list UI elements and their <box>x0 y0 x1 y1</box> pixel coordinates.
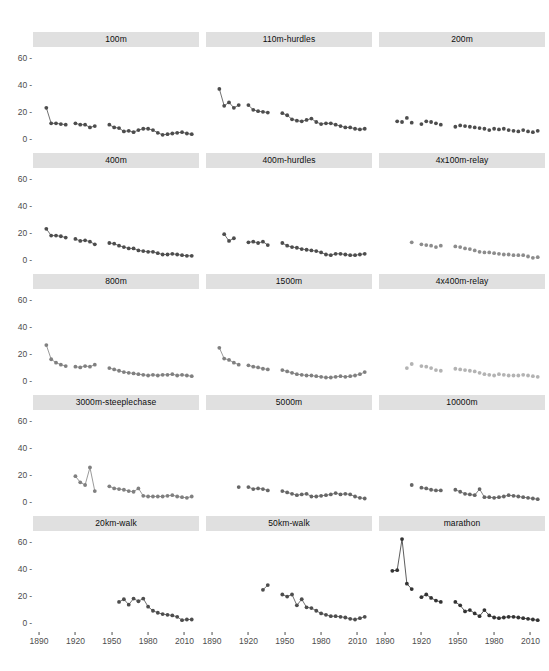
data-point <box>478 250 482 254</box>
data-point <box>424 593 428 597</box>
data-point <box>247 485 251 489</box>
y-tick-text: 40 <box>18 322 27 332</box>
y-axis-row-1: 0-20-40-60- <box>0 168 32 268</box>
series-canvas <box>206 168 372 268</box>
y-tick-mark: - <box>29 322 32 332</box>
data-point <box>251 365 255 369</box>
facet-panel-110m-hurdles: 110m-hurdles <box>206 32 372 147</box>
y-tick-label: 60- <box>18 54 32 63</box>
data-point <box>280 368 284 372</box>
data-point <box>161 612 165 616</box>
data-point <box>526 255 530 259</box>
facet-panel-400m: 400m <box>33 153 199 268</box>
data-point <box>310 249 314 253</box>
data-point <box>473 493 477 497</box>
data-point <box>280 593 284 597</box>
data-point <box>141 249 145 253</box>
data-point <box>439 244 443 248</box>
data-point <box>261 367 265 371</box>
data-point <box>166 253 170 257</box>
data-point <box>458 368 462 372</box>
data-point <box>339 493 343 497</box>
data-point <box>363 370 367 374</box>
data-point <box>536 255 540 259</box>
facet-strip-label: 110m-hurdles <box>263 35 316 44</box>
data-point <box>492 496 496 500</box>
data-point <box>290 245 294 249</box>
data-point <box>285 370 289 374</box>
x-tick-label: 1920 <box>412 632 431 646</box>
data-point <box>300 373 304 377</box>
data-point <box>78 123 82 127</box>
data-point <box>59 363 63 367</box>
facet-panel-1500m: 1500m <box>206 274 372 389</box>
data-point <box>353 374 357 378</box>
series-canvas <box>33 47 199 147</box>
data-point <box>49 234 53 238</box>
data-point <box>343 253 347 257</box>
data-point <box>390 569 394 573</box>
data-point <box>222 232 226 236</box>
data-point <box>526 617 530 621</box>
data-point <box>217 346 221 350</box>
data-point <box>473 370 477 374</box>
data-point <box>487 614 491 618</box>
data-point <box>502 253 506 257</box>
data-point <box>54 121 58 125</box>
data-point <box>343 492 347 496</box>
data-point <box>526 374 530 378</box>
data-point <box>324 613 328 617</box>
data-point <box>463 492 467 496</box>
y-tick-text: 0 <box>22 376 27 386</box>
facet-strip-label: 5000m <box>276 398 303 407</box>
data-point <box>161 495 165 499</box>
series-canvas <box>379 531 545 631</box>
data-point <box>487 128 491 132</box>
data-point <box>531 374 535 378</box>
y-tick-text: 20 <box>18 228 27 238</box>
data-point <box>141 373 145 377</box>
data-point <box>166 494 170 498</box>
data-point <box>463 247 467 251</box>
data-point <box>166 613 170 617</box>
data-point <box>483 608 487 612</box>
data-point <box>137 599 141 603</box>
data-point <box>78 365 82 369</box>
data-point <box>483 251 487 255</box>
data-point <box>497 495 501 499</box>
data-point <box>329 493 333 497</box>
data-point <box>434 599 438 603</box>
data-point <box>439 489 443 493</box>
data-point <box>217 87 221 91</box>
series-line <box>455 489 537 499</box>
data-point <box>190 132 194 136</box>
y-tick-text: 60 <box>18 53 27 63</box>
series-line <box>219 89 238 108</box>
series-canvas <box>379 410 545 510</box>
y-tick-text: 40 <box>18 80 27 90</box>
data-point <box>526 496 530 500</box>
data-point <box>487 373 491 377</box>
data-point <box>166 132 170 136</box>
data-point <box>319 612 323 616</box>
data-point <box>137 372 141 376</box>
data-point <box>319 494 323 498</box>
data-point <box>59 234 63 238</box>
data-point <box>127 603 131 607</box>
y-tick-mark: - <box>29 174 32 184</box>
data-point <box>329 121 333 125</box>
x-tick-text: 2010 <box>175 636 194 646</box>
facet-strip-20km-walk: 20km-walk <box>33 516 199 531</box>
x-tick-text: 1920 <box>66 636 85 646</box>
data-point <box>305 374 309 378</box>
data-point <box>348 617 352 621</box>
data-point <box>127 129 131 133</box>
data-point <box>290 593 294 597</box>
data-point <box>266 111 270 115</box>
facet-strip-800m: 800m <box>33 274 199 289</box>
data-point <box>175 495 179 499</box>
data-point <box>324 121 328 125</box>
y-tick-label: 0- <box>22 135 32 144</box>
data-point <box>141 127 145 131</box>
y-tick-text: 20 <box>18 107 27 117</box>
